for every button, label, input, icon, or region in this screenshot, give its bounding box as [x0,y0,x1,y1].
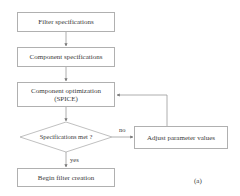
component-optimization-label: Component optimization [31,87,101,95]
component-optimization-box: Component optimization (SPICE) [17,82,115,107]
begin-filter-creation-label: Begin filter creation [38,174,94,182]
begin-filter-creation-box: Begin filter creation [17,168,115,187]
panel-label: (a) [194,177,202,185]
component-specifications-box: Component specifications [17,47,115,67]
filter-specifications-box: Filter specifications [17,12,115,32]
yes-edge-label: yes [70,156,79,163]
adjust-parameters-label: Adjust parameter values [147,134,215,142]
spice-label: (SPICE) [54,95,78,103]
component-specifications-label: Component specifications [30,53,103,61]
adjust-parameters-box: Adjust parameter values [134,126,228,149]
no-edge-label: no [119,126,126,133]
decision-label: Specifications met ? [30,133,102,140]
filter-specifications-label: Filter specifications [38,18,93,26]
